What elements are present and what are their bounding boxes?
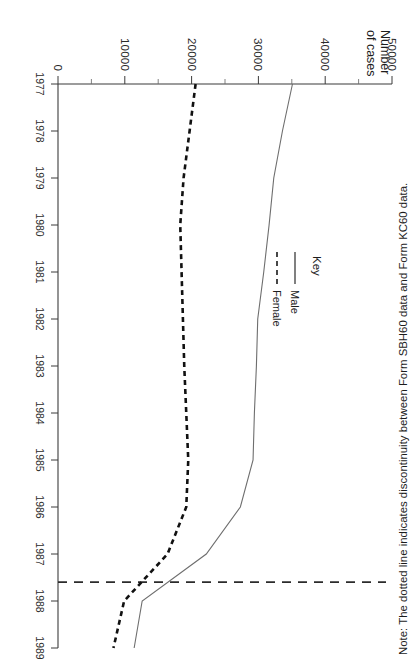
x-tick-label: 1981 <box>34 260 46 284</box>
y-tick-label: 20000 <box>186 38 198 71</box>
x-axis-ticks <box>51 84 58 648</box>
y-axis-title-line2: of cases <box>364 30 378 77</box>
legend-label-male: Male <box>289 290 301 314</box>
x-tick-label: 1987 <box>34 542 46 566</box>
y-tick-label: 0 <box>52 64 64 71</box>
y-tick-label: 10000 <box>119 38 131 71</box>
x-tick-label: 1986 <box>34 495 46 519</box>
legend-label-female: Female <box>271 290 283 327</box>
x-axis-labels: 1977197819791980198119821983198419851986… <box>34 72 46 660</box>
y-axis-ticks <box>58 76 392 84</box>
series-line-female <box>113 84 195 648</box>
x-tick-label: 1979 <box>34 166 46 190</box>
x-tick-label: 1983 <box>34 354 46 378</box>
y-tick-label: 40000 <box>319 38 331 71</box>
x-tick-label: 1982 <box>34 307 46 331</box>
y-axis-title-line1: Number <box>378 30 392 74</box>
x-tick-label: 1985 <box>34 448 46 472</box>
axes-group <box>58 84 392 648</box>
x-tick-label: 1980 <box>34 213 46 237</box>
legend: Key Male Female <box>271 252 323 327</box>
figure-note: Note: The dotted line indicates disconti… <box>397 15 410 655</box>
x-tick-label: 1989 <box>34 636 46 660</box>
x-tick-label: 1988 <box>34 589 46 613</box>
y-tick-label: 30000 <box>252 38 264 71</box>
x-tick-label: 1978 <box>34 119 46 143</box>
x-tick-label: 1984 <box>34 401 46 425</box>
x-tick-label: 1977 <box>34 72 46 96</box>
legend-title: Key <box>311 256 323 276</box>
y-axis-labels: 01000020000300004000050000 <box>52 38 398 71</box>
